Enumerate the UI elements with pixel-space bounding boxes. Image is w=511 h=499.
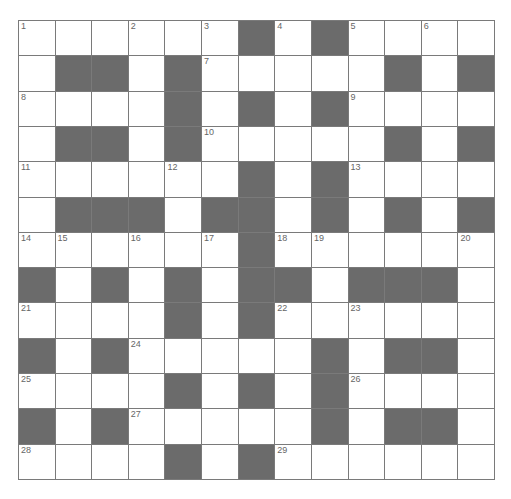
grid-cell[interactable]: 5 [349, 21, 385, 55]
grid-cell[interactable] [385, 233, 421, 267]
grid-cell[interactable]: 1 [19, 21, 55, 55]
grid-cell[interactable] [92, 445, 128, 479]
grid-cell[interactable] [239, 339, 275, 373]
grid-cell[interactable] [202, 409, 238, 443]
grid-cell[interactable] [349, 339, 385, 373]
grid-cell[interactable] [385, 162, 421, 196]
grid-cell[interactable] [129, 127, 165, 161]
grid-cell[interactable]: 21 [19, 303, 55, 337]
grid-cell[interactable] [56, 21, 92, 55]
grid-cell[interactable] [458, 303, 494, 337]
grid-cell[interactable] [385, 92, 421, 126]
grid-cell[interactable] [202, 339, 238, 373]
grid-cell[interactable] [458, 374, 494, 408]
grid-cell[interactable] [275, 92, 311, 126]
grid-cell[interactable] [458, 445, 494, 479]
grid-cell[interactable] [202, 303, 238, 337]
grid-cell[interactable] [275, 198, 311, 232]
grid-cell[interactable] [129, 92, 165, 126]
grid-cell[interactable] [129, 162, 165, 196]
grid-cell[interactable] [312, 303, 348, 337]
grid-cell[interactable] [458, 162, 494, 196]
grid-cell[interactable]: 17 [202, 233, 238, 267]
grid-cell[interactable] [202, 445, 238, 479]
grid-cell[interactable] [458, 268, 494, 302]
grid-cell[interactable] [458, 409, 494, 443]
grid-cell[interactable]: 24 [129, 339, 165, 373]
grid-cell[interactable] [19, 127, 55, 161]
grid-cell[interactable] [422, 56, 458, 90]
grid-cell[interactable] [202, 268, 238, 302]
grid-cell[interactable]: 16 [129, 233, 165, 267]
grid-cell[interactable] [129, 374, 165, 408]
grid-cell[interactable]: 28 [19, 445, 55, 479]
grid-cell[interactable]: 2 [129, 21, 165, 55]
grid-cell[interactable] [422, 374, 458, 408]
grid-cell[interactable]: 23 [349, 303, 385, 337]
grid-cell[interactable] [239, 56, 275, 90]
grid-cell[interactable] [92, 374, 128, 408]
grid-cell[interactable] [349, 233, 385, 267]
grid-cell[interactable] [165, 233, 201, 267]
grid-cell[interactable] [19, 56, 55, 90]
grid-cell[interactable]: 14 [19, 233, 55, 267]
grid-cell[interactable] [458, 21, 494, 55]
grid-cell[interactable] [385, 445, 421, 479]
grid-cell[interactable]: 18 [275, 233, 311, 267]
grid-cell[interactable] [422, 233, 458, 267]
grid-cell[interactable] [56, 445, 92, 479]
grid-cell[interactable] [275, 162, 311, 196]
grid-cell[interactable]: 11 [19, 162, 55, 196]
grid-cell[interactable] [385, 303, 421, 337]
grid-cell[interactable] [56, 339, 92, 373]
grid-cell[interactable] [239, 409, 275, 443]
grid-cell[interactable] [129, 303, 165, 337]
grid-cell[interactable] [129, 268, 165, 302]
grid-cell[interactable]: 26 [349, 374, 385, 408]
grid-cell[interactable]: 22 [275, 303, 311, 337]
grid-cell[interactable] [275, 374, 311, 408]
grid-cell[interactable] [275, 339, 311, 373]
grid-cell[interactable]: 12 [165, 162, 201, 196]
grid-cell[interactable]: 4 [275, 21, 311, 55]
grid-cell[interactable] [385, 21, 421, 55]
grid-cell[interactable] [165, 339, 201, 373]
grid-cell[interactable]: 13 [349, 162, 385, 196]
grid-cell[interactable]: 3 [202, 21, 238, 55]
grid-cell[interactable] [422, 198, 458, 232]
grid-cell[interactable] [349, 445, 385, 479]
grid-cell[interactable]: 7 [202, 56, 238, 90]
grid-cell[interactable] [202, 374, 238, 408]
grid-cell[interactable]: 8 [19, 92, 55, 126]
grid-cell[interactable] [312, 56, 348, 90]
grid-cell[interactable]: 9 [349, 92, 385, 126]
grid-cell[interactable]: 6 [422, 21, 458, 55]
grid-cell[interactable] [19, 198, 55, 232]
grid-cell[interactable] [56, 162, 92, 196]
grid-cell[interactable] [312, 268, 348, 302]
grid-cell[interactable] [422, 445, 458, 479]
grid-cell[interactable] [202, 162, 238, 196]
grid-cell[interactable] [92, 162, 128, 196]
grid-cell[interactable] [92, 233, 128, 267]
grid-cell[interactable] [56, 303, 92, 337]
grid-cell[interactable] [92, 303, 128, 337]
grid-cell[interactable]: 15 [56, 233, 92, 267]
grid-cell[interactable] [56, 268, 92, 302]
grid-cell[interactable] [349, 198, 385, 232]
grid-cell[interactable] [312, 445, 348, 479]
grid-cell[interactable]: 20 [458, 233, 494, 267]
grid-cell[interactable] [56, 92, 92, 126]
grid-cell[interactable]: 10 [202, 127, 238, 161]
grid-cell[interactable] [92, 21, 128, 55]
grid-cell[interactable] [56, 409, 92, 443]
grid-cell[interactable] [202, 92, 238, 126]
grid-cell[interactable] [312, 127, 348, 161]
grid-cell[interactable] [129, 56, 165, 90]
grid-cell[interactable] [385, 374, 421, 408]
grid-cell[interactable] [422, 303, 458, 337]
grid-cell[interactable] [275, 409, 311, 443]
grid-cell[interactable] [165, 198, 201, 232]
grid-cell[interactable] [458, 339, 494, 373]
grid-cell[interactable] [349, 127, 385, 161]
